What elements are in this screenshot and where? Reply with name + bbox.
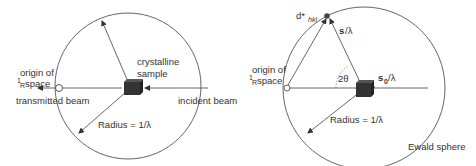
reflection-point [324, 13, 330, 19]
origin-label-line2: 1 R space [17, 77, 50, 89]
origin-label-line1: origin of [20, 67, 54, 78]
svg-text:/λ: /λ [345, 25, 353, 36]
two-theta-label: 2θ [338, 73, 349, 84]
ewald-construction-figure: crystalline sample origin of 1 R space t… [0, 0, 476, 166]
d-star-arrow [288, 19, 326, 85]
svg-text:s: s [339, 25, 344, 36]
radius-label-right: Radius = 1/λ [330, 114, 383, 125]
radius-arrow-up [102, 21, 129, 84]
origin-label-right-line2: 1 R space [249, 74, 282, 86]
s-over-lambda-label: s /λ [339, 25, 353, 36]
transmitted-beam-label: transmitted beam [16, 95, 89, 106]
svg-text:/λ: /λ [388, 72, 396, 83]
crystal-sample-icon-right [356, 80, 374, 97]
svg-text:space: space [257, 75, 282, 86]
left-diagram: crystalline sample origin of 1 R space t… [16, 13, 237, 159]
svg-text:space: space [25, 78, 50, 89]
origin-marker [56, 85, 63, 92]
svg-text:hkl: hkl [308, 16, 317, 23]
svg-text:d*: d* [296, 10, 305, 21]
origin-label-right-line1: origin of [252, 64, 286, 75]
right-diagram: d* hkl s /λ 2θ s 0 /λ origin of 1 R spac… [249, 7, 466, 166]
ewald-sphere-label: Ewald sphere [408, 141, 466, 152]
radius-label-left: Radius = 1/λ [98, 119, 151, 130]
incident-beam-label: incident beam [178, 95, 237, 106]
d-star-hkl-label: d* hkl [296, 10, 317, 23]
crystalline-label: crystalline [137, 56, 179, 67]
radius-arrow-right [308, 92, 360, 133]
crystal-sample-icon [124, 79, 143, 95]
s0-over-lambda-label: s 0 /λ [378, 72, 396, 85]
svg-text:s: s [378, 72, 383, 83]
sample-label: sample [137, 68, 168, 79]
origin-marker-right [284, 85, 290, 91]
